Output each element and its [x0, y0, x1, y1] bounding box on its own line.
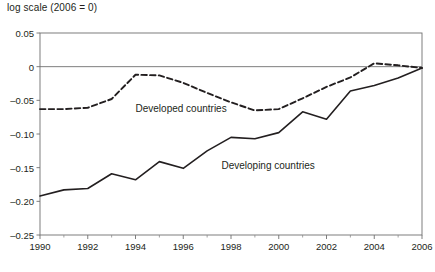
- chart-canvas: [0, 0, 435, 272]
- series-lines-layer: [40, 63, 422, 196]
- chart-figure: log scale (2006 = 0) 0.050–0.05–0.10–0.1…: [0, 0, 435, 272]
- y-tick-label: –0.15: [0, 162, 34, 173]
- y-tick-label: –0.10: [0, 129, 34, 140]
- x-tick-label: 2000: [268, 241, 289, 252]
- x-tick-label: 2006: [411, 241, 432, 252]
- x-tick-label: 2002: [316, 241, 337, 252]
- x-tick-label: 1994: [125, 241, 146, 252]
- x-tick-label: 1996: [173, 241, 194, 252]
- y-tick-label: –0.05: [0, 95, 34, 106]
- y-tick-label: 0.05: [0, 28, 34, 39]
- series-annotation-developing-countries: Developing countries: [221, 160, 314, 171]
- x-tick-label: 2004: [364, 241, 385, 252]
- y-tick-label: –0.25: [0, 230, 34, 241]
- x-tick-label: 1992: [77, 241, 98, 252]
- y-tick-label: 0: [0, 61, 34, 72]
- series-line-developing-countries: [40, 68, 422, 196]
- y-tick-label: –0.20: [0, 196, 34, 207]
- axes-layer: [37, 33, 423, 239]
- x-tick-label: 1998: [220, 241, 241, 252]
- series-annotation-developed-countries: Developed countries: [136, 103, 227, 114]
- x-tick-label: 1990: [29, 241, 50, 252]
